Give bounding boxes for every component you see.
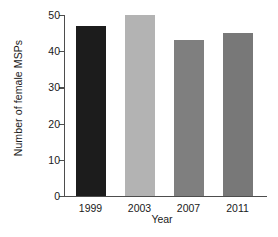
y-tick-label: 30 xyxy=(48,81,60,93)
x-axis-line xyxy=(63,196,267,197)
y-tick-label: 10 xyxy=(48,154,60,166)
y-tick-label: 0 xyxy=(54,190,60,202)
x-axis-title: Year xyxy=(64,213,260,225)
y-tick-label: 40 xyxy=(48,45,60,57)
bar-2003 xyxy=(125,15,155,196)
y-axis-line xyxy=(64,15,65,196)
y-tick-label: 20 xyxy=(48,118,60,130)
bar-1999 xyxy=(76,26,106,196)
plot-area: 01020304050 1999200320072011 xyxy=(64,12,260,196)
bar-2011 xyxy=(223,33,253,196)
bar-2007 xyxy=(174,40,204,196)
bar-chart: Number of female MSPs 01020304050 199920… xyxy=(0,0,278,237)
y-axis-title: Number of female MSPs xyxy=(8,0,28,196)
y-tick-label: 50 xyxy=(48,9,60,21)
